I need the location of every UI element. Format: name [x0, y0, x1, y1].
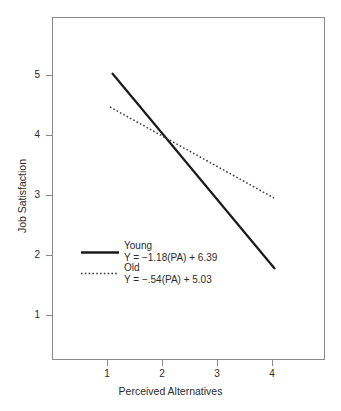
legend-entry-young-name: Young — [124, 240, 217, 252]
legend-entry-old: Old Y = −.54(PA) + 5.03 — [124, 262, 212, 285]
x-tick-label-3: 3 — [209, 369, 225, 379]
x-axis-ticks — [108, 360, 273, 366]
chart-plot-area — [0, 0, 341, 411]
x-axis-title: Perceived Alternatives — [0, 385, 341, 397]
x-tick-label-4: 4 — [264, 369, 280, 379]
legend-entry-old-name: Old — [124, 262, 212, 274]
chart-figure: 5 4 3 2 1 1 2 3 4 Perceived Alternatives… — [0, 0, 341, 411]
y-tick-label-5: 5 — [24, 70, 40, 80]
legend-entry-old-equation: Y = −.54(PA) + 5.03 — [124, 274, 212, 286]
y-tick-label-1: 1 — [24, 310, 40, 320]
x-tick-label-2: 2 — [154, 369, 170, 379]
plot-frame — [53, 18, 325, 360]
legend-entry-young: Young Y = −1.18(PA) + 6.39 — [124, 240, 217, 263]
x-tick-label-1: 1 — [99, 369, 115, 379]
y-axis-title: Job Satisfaction — [16, 136, 28, 256]
y-axis-ticks — [46, 76, 52, 316]
series-line-old — [110, 107, 274, 198]
